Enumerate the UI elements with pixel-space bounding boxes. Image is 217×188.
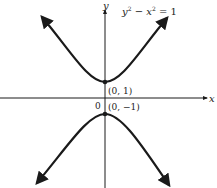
hyperbola-diagram: y x 0 y2 − x2 = 1 (0, 1) (0, −1) (0, 0, 217, 188)
point-label-upper: (0, 1) (108, 86, 132, 96)
point-label-lower: (0, −1) (108, 102, 140, 112)
equation-label: y2 − x2 = 1 (121, 5, 177, 17)
x-axis-label: x (209, 93, 215, 104)
vertex-point-lower (103, 112, 108, 117)
hyperbola-lower-branch (37, 114, 169, 185)
vertex-point-upper (103, 80, 108, 85)
origin-label: 0 (95, 101, 101, 111)
y-axis-label: y (102, 0, 109, 11)
